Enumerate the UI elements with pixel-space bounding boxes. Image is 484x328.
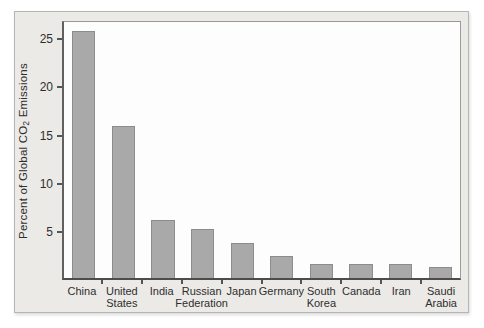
y-tick-label: 15 — [23, 129, 53, 143]
x-tick-mark — [261, 280, 263, 284]
x-tick-mark — [221, 280, 223, 284]
bar-russian-federation — [191, 229, 214, 278]
page: Percent of Global CO2 Emissions 51015202… — [0, 0, 484, 328]
x-tick-mark — [141, 280, 143, 284]
x-tick-mark — [380, 280, 382, 284]
bar-united-states — [112, 126, 135, 278]
y-tick-label: 25 — [23, 32, 53, 46]
y-tick-label: 20 — [23, 80, 53, 94]
y-tick-mark — [57, 135, 62, 137]
bar-india — [151, 220, 174, 278]
y-tick-label: 10 — [23, 177, 53, 191]
y-tick-mark — [57, 231, 62, 233]
y-tick-mark — [57, 183, 62, 185]
co2-emissions-bar-chart: Percent of Global CO2 Emissions 51015202… — [14, 11, 469, 313]
bar-iran — [389, 264, 412, 278]
y-axis-title: Percent of Global CO2 Emissions — [16, 21, 34, 280]
bar-germany — [270, 256, 293, 278]
y-axis-title-subscript: 2 — [21, 120, 31, 125]
bar-saudi-arabia — [429, 267, 452, 278]
plot-area — [62, 21, 461, 280]
x-tick-mark — [181, 280, 183, 284]
bar-japan — [231, 243, 254, 278]
bar-south-korea — [310, 264, 333, 278]
y-tick-label: 5 — [23, 225, 53, 239]
x-category-label: Saudi Arabia — [412, 286, 470, 309]
y-tick-mark — [57, 86, 62, 88]
bar-canada — [349, 264, 372, 278]
bar-china — [72, 31, 95, 278]
x-tick-mark — [340, 280, 342, 284]
x-tick-mark — [300, 280, 302, 284]
x-tick-mark — [101, 280, 103, 284]
x-tick-mark — [420, 280, 422, 284]
y-tick-mark — [57, 38, 62, 40]
